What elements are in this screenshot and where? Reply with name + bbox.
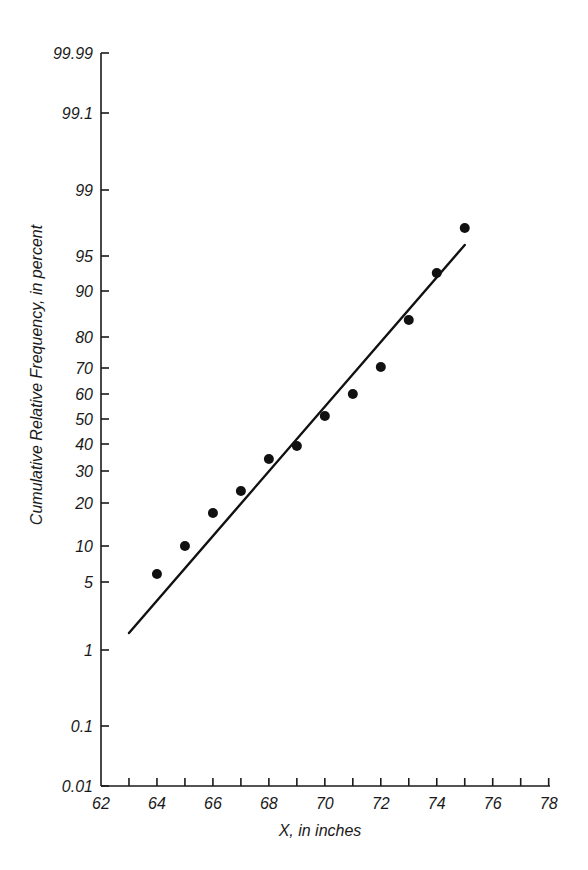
data-point xyxy=(208,508,218,518)
x-tick-label: 68 xyxy=(260,795,278,812)
x-tick-label: 74 xyxy=(428,795,446,812)
fitted-line xyxy=(129,245,465,633)
y-tick-label: 99.1 xyxy=(62,105,93,122)
x-ticks: 626466687072747678 xyxy=(92,778,558,812)
fit-line xyxy=(129,245,465,633)
x-tick-label: 70 xyxy=(316,795,334,812)
data-point xyxy=(152,569,162,579)
data-point xyxy=(432,268,442,278)
y-tick-label: 99 xyxy=(75,182,93,199)
y-tick-label: 40 xyxy=(75,436,93,453)
y-tick-label: 0.1 xyxy=(71,718,93,735)
y-tick-label: 5 xyxy=(84,574,93,591)
y-tick-label: 30 xyxy=(75,463,93,480)
data-point xyxy=(348,389,358,399)
y-tick-label: 60 xyxy=(75,386,93,403)
data-point xyxy=(236,486,246,496)
y-tick-label: 20 xyxy=(74,495,93,512)
y-tick-label: 99.99 xyxy=(53,45,93,62)
x-tick-label: 72 xyxy=(372,795,390,812)
y-tick-label: 90 xyxy=(75,283,93,300)
x-tick-label: 76 xyxy=(484,795,502,812)
data-point xyxy=(460,223,470,233)
x-axis-label: X, in inches xyxy=(278,822,362,839)
y-tick-label: 1 xyxy=(84,642,93,659)
y-tick-label: 10 xyxy=(75,538,93,555)
data-point xyxy=(292,441,302,451)
data-point xyxy=(320,411,330,421)
normal-probability-plot: 99.9999.19995908070605040302010510.10.01… xyxy=(0,0,588,870)
x-tick-label: 62 xyxy=(92,795,110,812)
data-point xyxy=(376,362,386,372)
x-tick-label: 78 xyxy=(540,795,558,812)
y-tick-label: 50 xyxy=(75,411,93,428)
data-point xyxy=(264,454,274,464)
x-tick-label: 64 xyxy=(148,795,166,812)
y-tick-label: 95 xyxy=(75,248,93,265)
x-tick-label: 66 xyxy=(204,795,222,812)
y-axis-label: Cumulative Relative Frequency, in percen… xyxy=(28,224,45,525)
data-points xyxy=(152,223,470,579)
data-point xyxy=(404,315,414,325)
y-tick-label: 0.01 xyxy=(62,778,93,795)
y-tick-label: 70 xyxy=(75,360,93,377)
data-point xyxy=(180,541,190,551)
y-tick-label: 80 xyxy=(75,329,93,346)
